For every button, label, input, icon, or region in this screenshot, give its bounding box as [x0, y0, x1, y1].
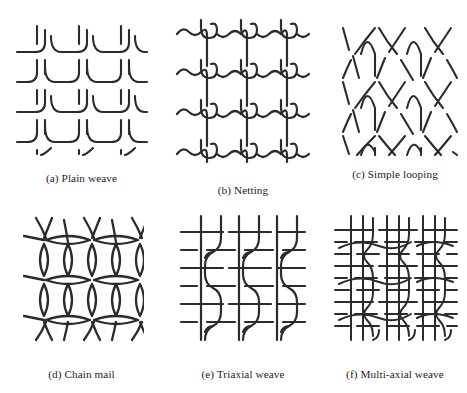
panel-caption: (c) Simple looping [352, 168, 438, 180]
triaxial-weave-diagram [179, 212, 307, 342]
panel-caption: (b) Netting [218, 184, 269, 196]
panel-caption: (f) Multi-axial weave [346, 368, 444, 380]
netting-diagram [173, 12, 313, 164]
panel-plain-weave: (a) Plain weave [0, 0, 163, 196]
simple-looping-diagram [335, 24, 459, 156]
panel-simple-looping: (c) Simple looping [323, 0, 467, 196]
panel-caption: (a) Plain weave [46, 172, 117, 184]
panel-caption: (d) Chain mail [48, 368, 115, 380]
panel-netting: (b) Netting [163, 0, 323, 196]
plain-weave-diagram [15, 22, 149, 156]
panel-multi-axial-weave: (f) Multi-axial weave [323, 196, 467, 393]
multi-axial-weave-diagram [333, 212, 459, 342]
chain-mail-diagram [20, 212, 144, 342]
textile-structures-figure: (a) Plain weave [0, 0, 467, 393]
panel-triaxial-weave: (e) Triaxial weave [163, 196, 323, 393]
panel-chain-mail: (d) Chain mail [0, 196, 163, 393]
panel-caption: (e) Triaxial weave [201, 368, 284, 380]
